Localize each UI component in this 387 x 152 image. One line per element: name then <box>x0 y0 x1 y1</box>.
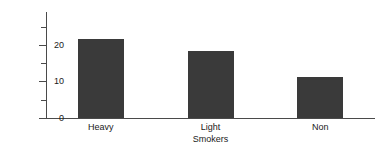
y-tick-label: 10 <box>34 76 64 86</box>
bar <box>188 51 234 118</box>
y-tick-label: 20 <box>34 40 64 50</box>
x-axis-line <box>46 118 375 119</box>
x-tick-label: Heavy <box>61 122 141 133</box>
x-tick-label: Light <box>171 122 251 133</box>
x-tick-label: Non <box>280 122 360 133</box>
plot-area: 01020 <box>46 12 375 118</box>
x-axis-title: Smokers <box>46 134 375 145</box>
bar <box>297 77 343 118</box>
y-axis-tick-labels: 01020 <box>34 12 64 118</box>
bar <box>78 39 124 118</box>
bar-chart: Number of clients 01020 HeavyLightNon Sm… <box>0 0 387 152</box>
x-axis-tick-labels: HeavyLightNon <box>46 122 375 134</box>
